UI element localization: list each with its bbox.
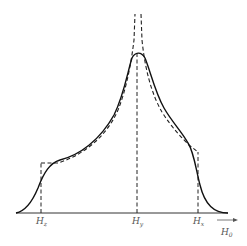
hy-label: Hy [131,216,144,228]
svg-text:Hx: Hx [192,216,205,227]
field-arrow-icon [217,218,238,222]
svg-text:H0: H0 [220,227,233,238]
svg-text:Hz: Hz [35,216,48,227]
svg-text:Hy: Hy [131,216,144,228]
field-axis-label: H0 [220,227,233,238]
hz-label: Hz [35,216,48,227]
line-shape-figure: Hz Hy Hx H0 [0,0,247,246]
dashed-powder-pattern-curve [41,14,198,163]
hx-label: Hx [192,216,205,227]
solid-broadened-line-curve [16,53,228,213]
